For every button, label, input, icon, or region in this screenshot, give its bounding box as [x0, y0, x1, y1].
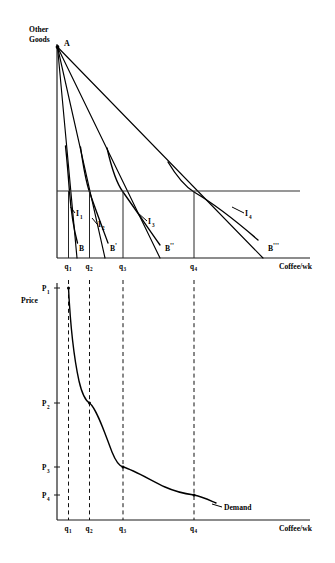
budget-line-label-b-double-prime: B '' [165, 243, 174, 253]
budget-line-label-b-prime-marks: ' [115, 243, 117, 251]
lower-x-tick-q2-text: q [86, 525, 90, 533]
upper-x-tick-q2: q 2 [86, 263, 94, 272]
indifference-curve-label-i3: I 3 [148, 217, 155, 228]
lower-y-axis-label: Price [21, 296, 38, 305]
upper-x-tick-q3-text: q [119, 263, 123, 271]
lower-x-axis-label: Coffee/wk [279, 524, 313, 533]
indifference-curve-label-i1-sub: 1 [80, 214, 83, 220]
income-point-a-marker [56, 45, 60, 49]
income-point-a-label: A [64, 39, 70, 48]
indifference-curve-label-i1-text: I [76, 209, 79, 218]
lower-y-tick-p1-sub: 1 [47, 289, 50, 295]
upper-x-tick-q4-sub: 4 [195, 266, 198, 272]
demand-curve-label: Demand [224, 503, 252, 512]
upper-x-tick-q3-sub: 3 [124, 266, 127, 272]
budget-line-label-b-text: B [79, 244, 84, 253]
indifference-curve-i3 [107, 148, 160, 245]
leader-line-demand [212, 504, 222, 507]
leader-line-i4 [232, 207, 244, 213]
budget-line-b-triple-prime [58, 47, 264, 258]
lower-y-tick-p1: P 1 [42, 285, 50, 295]
indifference-curve-label-i3-text: I [148, 217, 151, 226]
lower-x-tick-q4-text: q [190, 525, 194, 533]
budget-line-label-b-triple-prime-marks: ''' [273, 243, 279, 251]
indifference-curve-panel: Other Goods A I 1 I 2 I 3 I 4 [29, 25, 313, 272]
lower-y-tick-p4: P 4 [42, 492, 50, 502]
demand-curve-panel: Price P 1 P 2 P 3 P 4 Demand [21, 280, 313, 534]
budget-line-label-b: B [79, 244, 84, 253]
lower-x-tick-q1: q 1 [65, 525, 73, 534]
lower-x-tick-q3-sub: 3 [124, 528, 127, 534]
indifference-curve-label-i2-text: I [98, 220, 101, 229]
indifference-curve-label-i2: I 2 [98, 220, 105, 231]
demand-point-q3-p3 [122, 466, 125, 469]
demand-point-q4-p4 [193, 494, 196, 497]
indifference-curve-label-i4-text: I [245, 209, 248, 218]
upper-x-tick-q1: q 1 [65, 263, 73, 272]
lower-x-tick-q3: q 3 [119, 525, 127, 534]
demand-point-q2-p2 [88, 402, 91, 405]
lower-y-tick-p4-sub: 4 [47, 496, 50, 502]
demand-point-q1-p1 [67, 287, 70, 290]
budget-line-label-b-prime: B ' [110, 243, 117, 253]
indifference-curve-label-i1: I 1 [76, 209, 83, 220]
indifference-curve-label-i4-sub: 4 [249, 214, 252, 220]
lower-x-tick-q3-text: q [119, 525, 123, 533]
lower-y-tick-p2: P 2 [42, 400, 50, 410]
lower-y-tick-p3: P 3 [42, 464, 50, 474]
lower-x-tick-q1-text: q [65, 525, 69, 533]
lower-x-tick-q1-sub: 1 [69, 528, 72, 534]
upper-x-tick-q4: q 4 [190, 263, 198, 272]
upper-y-axis-label-line2: Goods [29, 35, 50, 44]
upper-x-tick-q3: q 3 [119, 263, 127, 272]
budget-line-label-b-double-prime-marks: '' [170, 243, 174, 251]
economics-figure: Other Goods A I 1 I 2 I 3 I 4 [0, 0, 335, 563]
lower-x-tick-q4: q 4 [190, 525, 198, 534]
lower-y-tick-p2-sub: 2 [47, 404, 50, 410]
lower-y-tick-p3-sub: 3 [47, 468, 50, 474]
figure-canvas: Other Goods A I 1 I 2 I 3 I 4 [0, 0, 335, 563]
upper-x-tick-q2-text: q [86, 263, 90, 271]
budget-line-b-double-prime [58, 47, 161, 258]
indifference-curve-label-i4: I 4 [245, 209, 252, 220]
budget-line-label-b-triple-prime: B ''' [268, 243, 279, 253]
lower-x-tick-q2: q 2 [86, 525, 94, 534]
upper-x-tick-q4-text: q [190, 263, 194, 271]
indifference-curve-label-i2-sub: 2 [102, 225, 105, 231]
upper-x-tick-q2-sub: 2 [90, 266, 93, 272]
upper-y-axis-label-line1: Other [29, 25, 49, 34]
upper-x-axis-label: Coffee/wk [279, 262, 313, 271]
upper-x-tick-q1-sub: 1 [69, 266, 72, 272]
upper-x-tick-q1-text: q [65, 263, 69, 271]
lower-x-tick-q2-sub: 2 [90, 528, 93, 534]
lower-x-tick-q4-sub: 4 [195, 528, 198, 534]
indifference-curve-label-i3-sub: 3 [152, 222, 155, 228]
